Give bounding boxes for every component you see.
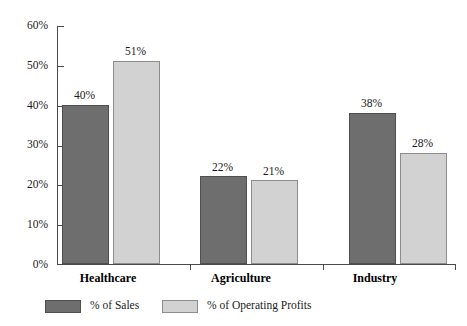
x-axis-label-industry: Industry: [315, 272, 435, 284]
y-tick-50: [58, 66, 64, 67]
y-axis-tick-label-10: 10%: [4, 219, 48, 231]
bar-industry-profits: [400, 153, 447, 265]
bar-chart: 60% 50% 40% 30% 20% 10% 0% 40% 51% 22%: [0, 0, 467, 326]
bar-value-industry-profits: 28%: [399, 138, 446, 150]
y-axis-tick-label-20: 20%: [4, 179, 48, 191]
x-axis-label-agriculture: Agriculture: [181, 272, 301, 284]
legend-swatch-sales: [45, 300, 81, 313]
y-axis-tick-label-30: 30%: [4, 139, 48, 151]
x-axis-label-healthcare: Healthcare: [48, 272, 168, 284]
y-tick-60: [58, 26, 64, 27]
x-tick-2: [323, 264, 324, 270]
legend-swatch-profits: [162, 300, 198, 313]
bar-healthcare-sales: [62, 105, 109, 264]
bar-value-healthcare-sales: 40%: [61, 90, 108, 102]
bar-value-agriculture-profits: 21%: [250, 166, 297, 178]
y-axis-tick-label-0: 0%: [4, 259, 48, 271]
y-axis-tick-label-40: 40%: [4, 100, 48, 112]
legend: % of Sales % of Operating Profits: [0, 298, 467, 318]
bar-healthcare-profits: [113, 61, 160, 264]
x-tick-3: [455, 264, 456, 270]
legend-label-profits: % of Operating Profits: [207, 300, 311, 312]
bar-value-agriculture-sales: 22%: [199, 162, 246, 174]
y-axis-tick-label-50: 50%: [4, 60, 48, 72]
x-tick-1: [190, 264, 191, 270]
plot-area: [57, 26, 455, 265]
y-axis-tick-label-60: 60%: [4, 20, 48, 32]
bar-value-industry-sales: 38%: [348, 98, 395, 110]
legend-item-sales: % of Sales: [45, 298, 139, 314]
legend-label-sales: % of Sales: [90, 300, 139, 312]
bar-agriculture-sales: [200, 176, 247, 264]
legend-item-profits: % of Operating Profits: [162, 298, 311, 314]
bar-value-healthcare-profits: 51%: [112, 46, 159, 58]
bar-industry-sales: [349, 113, 396, 264]
bar-agriculture-profits: [251, 180, 298, 264]
